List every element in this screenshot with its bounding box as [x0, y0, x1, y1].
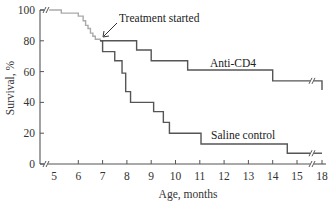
saline-control-curve [100, 41, 310, 153]
treatment-annotation: Treatment started [103, 12, 200, 37]
axis-break-top [40, 7, 49, 13]
y-tick-label: 40 [24, 96, 36, 108]
y-axis: 020406080100 Survival, % [4, 4, 44, 170]
treatment-started-label: Treatment started [119, 12, 200, 24]
y-tick-label: 0 [29, 158, 35, 170]
x-tick-label: 15 [291, 170, 303, 182]
y-tick-label: 20 [24, 127, 36, 139]
saline-control-label: Saline control [211, 129, 275, 141]
y-tick-label: 80 [24, 35, 36, 47]
x-tick-label: 7 [100, 170, 106, 182]
x-tick-label: 13 [243, 170, 255, 182]
x-axis-label: Age, months [159, 188, 218, 201]
x-tick-label: 5 [51, 170, 57, 182]
anti-cd4-curve [314, 81, 322, 90]
pre-treatment-curve [49, 10, 100, 41]
x-tick-label: 9 [148, 170, 154, 182]
plot-area [49, 10, 322, 156]
x-tick-label: 18 [316, 170, 328, 182]
x-tick-label: 10 [170, 170, 182, 182]
y-tick-label: 100 [18, 4, 36, 16]
y-axis-label: Survival, % [4, 60, 17, 115]
x-tick-label: 11 [194, 170, 205, 182]
anti-cd4-curve [100, 41, 310, 81]
x-tick-label: 14 [267, 170, 279, 182]
x-tick-label: 12 [218, 170, 230, 182]
anti-cd4-label: Anti-CD4 [210, 57, 256, 69]
survival-chart: 020406080100 Survival, % 567891011121314… [0, 0, 334, 207]
x-tick-label: 8 [124, 170, 130, 182]
y-tick-label: 60 [24, 66, 36, 78]
x-tick-label: 6 [75, 170, 81, 182]
x-axis: 5678910111213141518 Age, months [40, 160, 328, 201]
